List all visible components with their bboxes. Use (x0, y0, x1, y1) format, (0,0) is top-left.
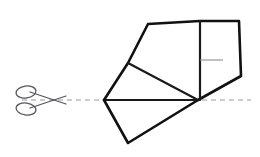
scissors-ring-lower (15, 102, 36, 117)
scissors-ring-upper (15, 85, 36, 100)
paper-folding-figure (0, 0, 260, 157)
figure-canvas (0, 0, 260, 157)
diagonal-crease-line (128, 63, 198, 100)
lower-flap-outline (104, 100, 198, 143)
